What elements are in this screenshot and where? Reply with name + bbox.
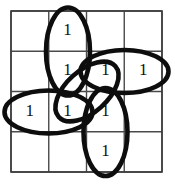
- cell-digit: 1: [101, 141, 110, 160]
- cell-digit: 1: [63, 101, 72, 120]
- cell-digit: 1: [26, 101, 35, 120]
- cell-digit: 1: [139, 60, 148, 79]
- karnaugh-map-figure: 1 1 1 1 1 1 1 1: [0, 0, 175, 184]
- karnaugh-map-canvas: 1 1 1 1 1 1 1 1: [0, 0, 175, 184]
- cell-digit: 1: [63, 20, 72, 39]
